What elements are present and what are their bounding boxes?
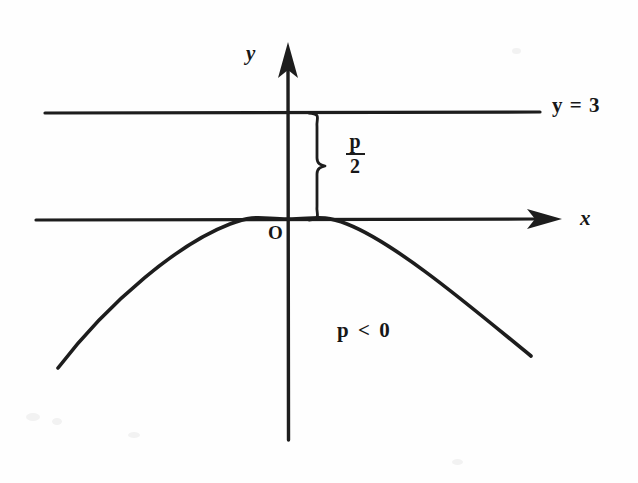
origin-label: O <box>268 222 283 244</box>
scan-speck <box>26 413 40 421</box>
scan-speck <box>128 432 140 438</box>
scan-speck <box>512 48 521 54</box>
y-axis-line <box>288 68 289 440</box>
y-axis-label: y <box>246 41 255 66</box>
scan-speck <box>52 418 62 425</box>
directrix-line <box>45 112 540 113</box>
fraction-numerator: p <box>338 131 372 152</box>
measure-brace <box>309 113 325 220</box>
x-axis-label: x <box>580 206 591 231</box>
scan-speck <box>452 459 463 465</box>
condition-label: p < 0 <box>337 318 392 343</box>
parabola-curve <box>58 218 531 368</box>
parabola-diagram-svg <box>0 0 638 483</box>
fraction-denominator: 2 <box>338 156 372 177</box>
brace-measure-fraction: p 2 <box>338 131 372 177</box>
figure-canvas: y x O y = 3 p 2 p < 0 <box>0 0 638 483</box>
directrix-equation-label: y = 3 <box>552 93 600 118</box>
